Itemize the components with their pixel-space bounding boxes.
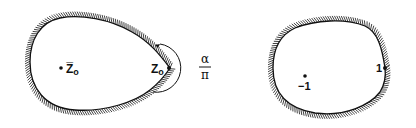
hatch-tick	[154, 87, 159, 89]
hatch-tick	[369, 23, 370, 29]
hatch-tick	[167, 59, 169, 64]
hatch-tick	[280, 33, 285, 35]
hatch-tick	[379, 94, 385, 95]
hatch-tick	[281, 98, 283, 103]
hatch-tick	[278, 35, 284, 36]
hatch-tick	[385, 75, 390, 77]
hatch-tick	[164, 76, 170, 77]
hatch-tick	[283, 99, 285, 104]
hatch-tick	[40, 96, 42, 101]
boundary-point-1-label: 1	[376, 62, 382, 74]
hatch-tick	[39, 24, 44, 26]
hatch-tick	[285, 101, 286, 107]
hatch-tick	[374, 98, 379, 100]
hatch-tick	[281, 31, 286, 33]
hatch-tick	[163, 54, 165, 59]
hatch-tick	[277, 94, 280, 99]
hatch-tick	[160, 81, 166, 82]
hatch-tick	[372, 26, 374, 31]
hatch-tick	[287, 102, 288, 108]
hatch-tick	[370, 101, 375, 103]
angle-fraction-label: α π	[199, 52, 211, 82]
hatch-tick	[35, 91, 38, 96]
hatch-tick	[159, 82, 165, 84]
hatch-tick	[36, 27, 42, 28]
interior-point-zbar0-label: Z̅o	[66, 62, 80, 77]
angle-fraction-denominator: π	[201, 68, 209, 82]
hatch-tick	[166, 58, 168, 63]
hatch-tick	[150, 39, 151, 45]
hatch-tick	[155, 85, 160, 87]
right-domain: −1 1	[268, 16, 390, 119]
hatch-tick	[285, 28, 290, 31]
interior-point-minus1-label: −1	[298, 80, 311, 92]
interior-point-zbar0-marker	[59, 66, 63, 70]
hatch-tick	[153, 42, 155, 47]
hatch-tick	[37, 92, 39, 97]
hatch-tick	[46, 100, 47, 106]
hatch-tick	[42, 97, 43, 103]
hatch-tick	[145, 35, 146, 41]
hatch-tick	[167, 72, 173, 73]
hatch-tick	[376, 97, 381, 99]
hatch-tick	[371, 24, 372, 30]
hatch-tick	[275, 39, 281, 40]
corner-point-z0-marker	[167, 66, 171, 70]
hatch-tick	[75, 110, 77, 115]
hatch-tick	[162, 52, 164, 57]
hatch-tick	[157, 84, 162, 86]
hatch-tick	[33, 31, 39, 32]
hatch-tick	[48, 101, 49, 107]
left-domain: Z̅o Zo α π	[25, 12, 211, 116]
hatch-tick	[375, 29, 378, 34]
hatch-tick	[41, 22, 46, 24]
hatch-tick	[279, 96, 281, 101]
hatch-tick	[276, 37, 282, 38]
corner-point-z0-label: Zo	[151, 62, 164, 77]
hatch-tick	[159, 49, 161, 54]
hatch-tick	[374, 28, 376, 33]
hatch-tick	[141, 32, 142, 38]
hatch-tick	[34, 29, 40, 30]
left-domain-boundary	[30, 17, 170, 111]
hatch-tick	[148, 38, 149, 44]
hatch-tick	[38, 94, 40, 99]
hatch-tick	[283, 30, 288, 32]
hatch-tick	[162, 79, 168, 80]
hatch-tick	[37, 25, 42, 27]
hatch-tick	[155, 44, 157, 49]
hatch-tick	[139, 31, 140, 37]
hatch-tick	[147, 92, 152, 95]
hatch-tick	[165, 56, 167, 61]
hatch-tick	[372, 100, 377, 102]
boundary-point-1-marker	[383, 66, 387, 70]
hatch-tick	[25, 57, 30, 59]
right-domain-boundary	[273, 21, 385, 114]
hatch-tick	[163, 77, 169, 78]
angle-fraction-numerator: α	[201, 52, 209, 66]
hatch-tick	[150, 90, 155, 92]
hatch-tick	[43, 20, 48, 23]
hatch-tick	[289, 103, 290, 109]
hatch-tick	[44, 99, 45, 105]
hatch-tick	[166, 74, 172, 75]
hatch-tick	[377, 95, 383, 96]
hatch-tick	[143, 34, 144, 40]
conformal-map-diagram: Z̅o Zo α π −1 1	[0, 0, 416, 128]
interior-point-minus1-marker	[303, 74, 307, 78]
hatch-tick	[158, 47, 160, 52]
hatch-tick	[168, 70, 174, 71]
hatch-tick	[146, 36, 147, 42]
hatch-tick	[151, 41, 152, 47]
hatch-tick	[160, 51, 162, 56]
hatch-tick	[152, 88, 157, 90]
hatch-tick	[169, 61, 171, 66]
